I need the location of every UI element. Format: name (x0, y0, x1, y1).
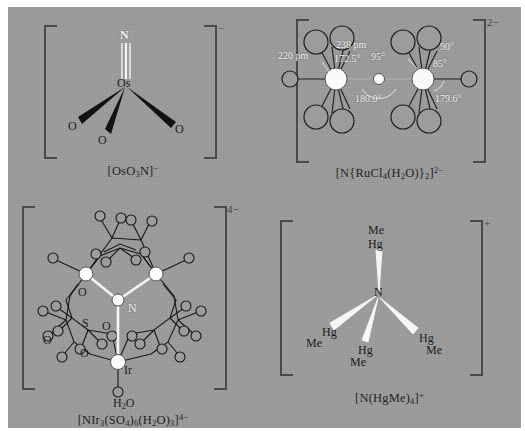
atom-label-o-lower: O (80, 347, 89, 359)
caption-part: [N(HgMe) (355, 391, 410, 405)
caption-part: (SO (104, 413, 125, 427)
caption-formula: [OsO3N]− (8, 163, 258, 179)
substituent-mid-me: Me (350, 356, 366, 368)
caption-formula: [N{RuCl4(H2O)}2]2− (258, 165, 521, 181)
atom-label-water: H2O (113, 397, 134, 411)
panel-iridium-sulfato-cluster: 4− (8, 192, 258, 428)
caption-part: N] (140, 164, 154, 178)
caption-part: [OsO (108, 164, 136, 178)
angle-180-0: 180.0° (355, 94, 382, 104)
caption-part: (H (387, 166, 401, 180)
atom-label-os: Os (117, 77, 130, 89)
caption-sup: 4− (179, 412, 188, 422)
water-o: O (126, 396, 135, 410)
angle-172-5: 172.5° (334, 54, 361, 64)
panel-osmium-nitride: − N Os O O O [OsO3N]− (8, 7, 258, 192)
atom-label-o-left: O (43, 334, 52, 346)
panel-ruthenium-nitrido-bridged: 2− (258, 7, 521, 192)
atom-label-ir: Ir (124, 364, 132, 376)
caption-part: [NIr (78, 413, 100, 427)
figure-canvas: − N Os O O O [OsO3N]− 2− (8, 7, 521, 428)
caption-formula: [N(HgMe)4]+ (258, 390, 521, 406)
atom-label-n: N (120, 29, 129, 41)
caption-sup: 2− (434, 165, 443, 175)
caption-part: O) (405, 166, 419, 180)
atom-label-o-upper: O (78, 286, 87, 298)
angle-179-6: 179.6° (435, 94, 462, 104)
dimension-238pm: 238 pm (336, 40, 366, 50)
caption-part: O) (156, 413, 170, 427)
substituent-top-hg: Hg (368, 238, 383, 250)
atom-label-o-left: O (68, 120, 77, 132)
atom-label-o-right: O (175, 123, 184, 135)
atom-label-n-center: N (374, 286, 383, 298)
substituent-left-me: Me (306, 337, 322, 349)
atom-label-n-center: N (128, 302, 137, 314)
angle-85: 85° (433, 59, 447, 69)
atom-label-s: S (82, 317, 89, 329)
caption-part: RuCl (356, 166, 383, 180)
angle-95: 95° (371, 52, 385, 62)
substituent-top-me: Me (368, 224, 384, 236)
caption-formula: [NIr3(SO4)6(H2O)3]4− (8, 412, 258, 428)
dimension-220pm: 220 pm (278, 51, 308, 61)
angle-90: 90° (440, 42, 454, 52)
caption-sup: + (419, 390, 424, 400)
caption-part: (H (138, 413, 152, 427)
caption-sup: − (153, 163, 158, 173)
atom-label-o-mid: O (98, 134, 107, 146)
substituent-left-hg: Hg (322, 326, 337, 338)
substituent-right-me: Me (426, 344, 442, 356)
atom-label-o-right: O (102, 320, 111, 332)
water-h: H (113, 396, 122, 410)
panel-tetrakis-methylmercury-ammonium: + Me Hg N Hg Me Hg Me Hg Me [N(HgMe)4]+ (258, 192, 521, 428)
caption-part: [N (336, 166, 350, 180)
